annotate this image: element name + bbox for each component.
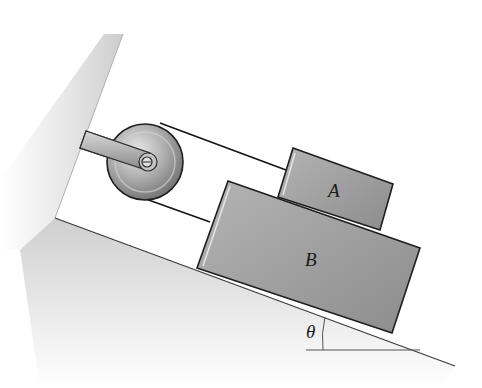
rope-lower — [143, 198, 210, 222]
incline-pulley-diagram: θ B A — [0, 0, 482, 388]
angle-label: θ — [306, 321, 315, 342]
block-b-label: B — [305, 249, 317, 270]
pulley — [80, 124, 183, 200]
block-a-label: A — [326, 180, 340, 201]
